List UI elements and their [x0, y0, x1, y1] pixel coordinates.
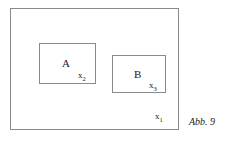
figure-caption: Abb. 9 — [189, 117, 215, 127]
element-label-x2-subscript: 2 — [83, 75, 86, 82]
element-label-x3-subscript: 3 — [154, 85, 157, 92]
element-label-x1-subscript: 1 — [160, 116, 163, 123]
set-a-rectangle: A x2 — [39, 43, 96, 84]
set-b-label: B — [134, 69, 141, 80]
set-a-label: A — [62, 58, 70, 69]
element-label-x3: x3 — [149, 81, 157, 92]
figure-container: A x2 B x3 x1 Abb. 9 — [0, 0, 230, 143]
set-b-rectangle: B x3 — [112, 55, 166, 93]
element-label-x2: x2 — [78, 71, 86, 82]
outer-set-rectangle: A x2 B x3 x1 — [10, 8, 179, 130]
element-label-x1: x1 — [155, 112, 163, 123]
